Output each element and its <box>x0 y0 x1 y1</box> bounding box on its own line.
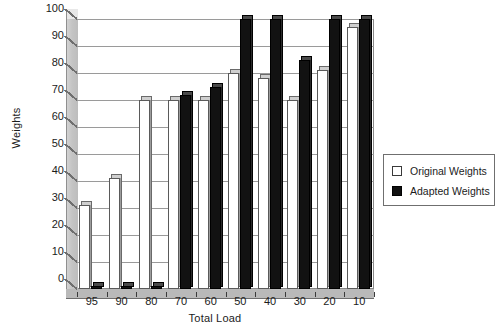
bar-adapted-weights <box>270 19 281 289</box>
legend-item-adapted: Adapted Weights <box>392 184 490 198</box>
bar-top-cap <box>212 83 223 87</box>
x-axis-title: Total Load <box>60 312 370 324</box>
y-axis-tick-label: 50 <box>34 137 64 149</box>
x-axis-tick-label: 80 <box>136 295 166 307</box>
bar-face <box>139 100 150 289</box>
y-axis-tick <box>64 225 77 236</box>
bar-original-weights <box>198 100 209 289</box>
x-axis-tick-labels: 95908070605040302010 <box>77 292 374 308</box>
bar-original-weights <box>228 73 239 289</box>
x-axis-tick-label: 60 <box>196 295 226 307</box>
bar-top-cap <box>153 282 164 286</box>
y-axis-tick-label: 70 <box>34 83 64 95</box>
y-axis-tick-label: 10 <box>34 245 64 257</box>
x-axis-tick-label: 95 <box>77 295 107 307</box>
y-axis-tick <box>64 171 77 182</box>
x-axis-tick <box>374 292 375 297</box>
bar-original-weights <box>347 27 358 289</box>
bar-face <box>287 100 298 289</box>
bar-group <box>315 19 345 289</box>
bar-top-cap <box>272 15 283 19</box>
bar-face <box>258 78 269 289</box>
bar-face <box>240 19 251 289</box>
bar-face <box>180 95 191 289</box>
bar-adapted-weights <box>329 19 340 289</box>
bar-top-cap <box>111 174 122 178</box>
bar-face <box>359 19 370 289</box>
bar-face <box>121 286 132 289</box>
legend-label: Adapted Weights <box>410 185 490 197</box>
bar-face <box>109 178 120 289</box>
bar-group <box>226 19 256 289</box>
bar-top-cap <box>331 15 342 19</box>
bar-original-weights <box>79 205 90 289</box>
bar-face <box>299 60 310 290</box>
bar-group <box>77 19 107 289</box>
y-axis-tick <box>64 36 77 47</box>
bar-adapted-weights <box>359 19 370 289</box>
bar-face <box>151 286 162 289</box>
bar-face <box>79 205 90 289</box>
y-axis-tick <box>64 279 77 290</box>
bar-original-weights <box>287 100 298 289</box>
bar-face <box>270 19 281 289</box>
y-axis-tick <box>64 144 77 155</box>
bar-adapted-weights <box>210 87 221 290</box>
bar-face <box>317 70 328 289</box>
bar-top-cap <box>93 282 104 286</box>
x-axis-tick-label: 50 <box>225 295 255 307</box>
y-axis-title: Weights <box>10 88 22 168</box>
y-axis-tick <box>64 9 77 20</box>
y-axis-tick <box>64 117 77 128</box>
bar-group <box>107 19 137 289</box>
x-axis-tick-label: 20 <box>314 295 344 307</box>
bar-top-cap <box>301 56 312 60</box>
bar-face <box>198 100 209 289</box>
bar-adapted-weights <box>121 286 132 289</box>
bar-original-weights <box>139 100 150 289</box>
bar-adapted-weights <box>240 19 251 289</box>
y-axis-tick-label: 40 <box>34 164 64 176</box>
y-axis-tick-label: 30 <box>34 191 64 203</box>
bar-face <box>168 100 179 289</box>
bar-adapted-weights <box>91 286 102 289</box>
y-axis-tick-label: 60 <box>34 110 64 122</box>
y-axis-tick-label: 100 <box>34 2 64 14</box>
x-axis-tick-label: 10 <box>344 295 374 307</box>
bar-group <box>196 19 226 289</box>
legend: Original Weights Adapted Weights <box>383 154 495 206</box>
bar-top-cap <box>361 15 372 19</box>
bar-top-cap <box>182 91 193 95</box>
bar-group <box>285 19 315 289</box>
bar-adapted-weights <box>151 286 162 289</box>
bar-face <box>347 27 358 289</box>
bar-group <box>136 19 166 289</box>
y-axis-tick <box>64 252 77 263</box>
filled-square-icon <box>392 186 402 196</box>
bar-group <box>344 19 374 289</box>
bar-chart: Weights 0102030405060708090100 959080706… <box>0 0 502 332</box>
bar-top-cap <box>81 201 92 205</box>
bar-group <box>255 19 285 289</box>
x-axis-tick-label: 90 <box>107 295 137 307</box>
bar-top-cap <box>123 282 134 286</box>
bar-top-cap <box>242 15 253 19</box>
legend-item-original: Original Weights <box>392 164 487 178</box>
y-axis-tick <box>64 63 77 74</box>
open-square-icon <box>392 166 402 176</box>
bar-face <box>210 87 221 290</box>
bar-original-weights <box>168 100 179 289</box>
bar-adapted-weights <box>180 95 191 289</box>
x-axis-tick-label: 30 <box>285 295 315 307</box>
bar-group <box>166 19 196 289</box>
legend-label: Original Weights <box>410 165 487 177</box>
bar-face <box>329 19 340 289</box>
bar-face <box>228 73 239 289</box>
bar-adapted-weights <box>299 60 310 290</box>
y-axis-tick <box>64 198 77 209</box>
x-axis-tick-label: 70 <box>166 295 196 307</box>
y-axis-tick-label: 80 <box>34 56 64 68</box>
y-axis-tick-label: 20 <box>34 218 64 230</box>
y-axis-tick-label: 90 <box>34 29 64 41</box>
bar-top-cap <box>141 96 152 100</box>
